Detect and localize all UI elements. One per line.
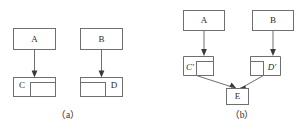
edge-cprime-to-e bbox=[197, 76, 237, 89]
node-a-b-label: A bbox=[201, 15, 208, 25]
panel-b-group: A B C′ bbox=[184, 11, 294, 121]
node-a-panel-b[interactable]: A bbox=[184, 11, 225, 31]
node-d-inner-rect bbox=[81, 83, 106, 97]
node-cprime-panel-b[interactable]: C′ bbox=[184, 57, 214, 76]
edge-b-to-d-arrowhead bbox=[99, 71, 105, 78]
node-b-panel-b[interactable]: B bbox=[253, 11, 294, 31]
caption-panel-a: （a） bbox=[56, 109, 80, 120]
diagram-canvas: A B C bbox=[0, 0, 301, 130]
node-e-panel-b[interactable]: E bbox=[227, 89, 249, 105]
node-cprime-label: C′ bbox=[186, 62, 195, 72]
node-d-panel-a[interactable]: D bbox=[81, 78, 123, 97]
edge-dprime-to-e-line bbox=[243, 76, 264, 88]
edge-b-to-d bbox=[99, 50, 105, 78]
node-a-panel-a[interactable]: A bbox=[14, 29, 56, 50]
node-cprime-inner-rect bbox=[197, 62, 214, 76]
node-b-b-label: B bbox=[270, 15, 276, 25]
node-c-panel-a[interactable]: C bbox=[14, 78, 56, 97]
node-dprime-label: D′ bbox=[267, 62, 277, 72]
edge-a-to-cprime-arrowhead bbox=[201, 49, 207, 56]
node-e-label: E bbox=[235, 91, 241, 101]
figure-container: A B C bbox=[0, 0, 301, 130]
node-b-panel-a[interactable]: B bbox=[81, 29, 123, 50]
edge-cprime-to-e-arrowhead bbox=[229, 83, 236, 89]
node-d-label: D bbox=[111, 80, 118, 90]
edge-a-to-c bbox=[32, 50, 38, 78]
edge-b-to-dprime bbox=[270, 31, 276, 57]
node-a-label: A bbox=[31, 34, 38, 44]
edge-cprime-to-e-line bbox=[197, 76, 233, 88]
caption-panel-b: （b） bbox=[230, 109, 255, 120]
node-c-label: C bbox=[19, 80, 25, 90]
node-dprime-inner-rect bbox=[251, 62, 264, 76]
edge-a-to-c-arrowhead bbox=[32, 71, 38, 78]
edge-b-to-dprime-arrowhead bbox=[270, 49, 276, 56]
node-b-label: B bbox=[98, 34, 104, 44]
edge-a-to-cprime bbox=[201, 31, 207, 57]
panel-a-group: A B C bbox=[14, 29, 123, 121]
edge-dprime-to-e bbox=[239, 76, 264, 91]
node-c-inner-rect bbox=[31, 83, 56, 97]
node-dprime-panel-b[interactable]: D′ bbox=[251, 57, 281, 76]
